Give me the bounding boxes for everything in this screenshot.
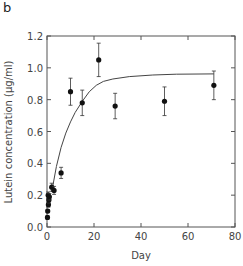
x-axis-title: Day <box>131 250 151 261</box>
plot-frame <box>47 36 235 227</box>
data-point <box>59 167 64 178</box>
x-tick-label: 40 <box>135 231 148 242</box>
y-axis: 0.00.20.40.60.81.01.2 <box>27 31 235 233</box>
y-tick-label: 1.2 <box>27 31 43 42</box>
data-point <box>162 87 167 116</box>
data-point <box>45 208 50 213</box>
x-tick-label: 20 <box>88 231 101 242</box>
y-axis-title: Lutein concentration (µg/ml) <box>3 60 14 203</box>
data-points <box>45 43 217 220</box>
data-point <box>45 215 50 220</box>
y-tick-label: 0.6 <box>27 127 43 138</box>
data-point <box>211 71 216 100</box>
y-tick-label: 0.0 <box>27 222 43 233</box>
y-tick-label: 0.8 <box>27 95 43 106</box>
y-tick-label: 1.0 <box>27 63 43 74</box>
y-tick-label: 0.2 <box>27 190 43 201</box>
data-point <box>113 93 118 118</box>
x-tick-label: 80 <box>229 231 242 242</box>
lutein-chart: 020406080 0.00.20.40.60.81.01.2 Day Lute… <box>0 0 243 266</box>
x-tick-label: 60 <box>182 231 195 242</box>
x-tick-label: 0 <box>44 231 50 242</box>
data-point <box>80 90 85 115</box>
x-axis: 020406080 <box>44 36 242 242</box>
y-tick-label: 0.4 <box>27 158 43 169</box>
fit-curve <box>52 74 214 192</box>
data-point <box>68 78 73 105</box>
data-point <box>96 43 101 76</box>
